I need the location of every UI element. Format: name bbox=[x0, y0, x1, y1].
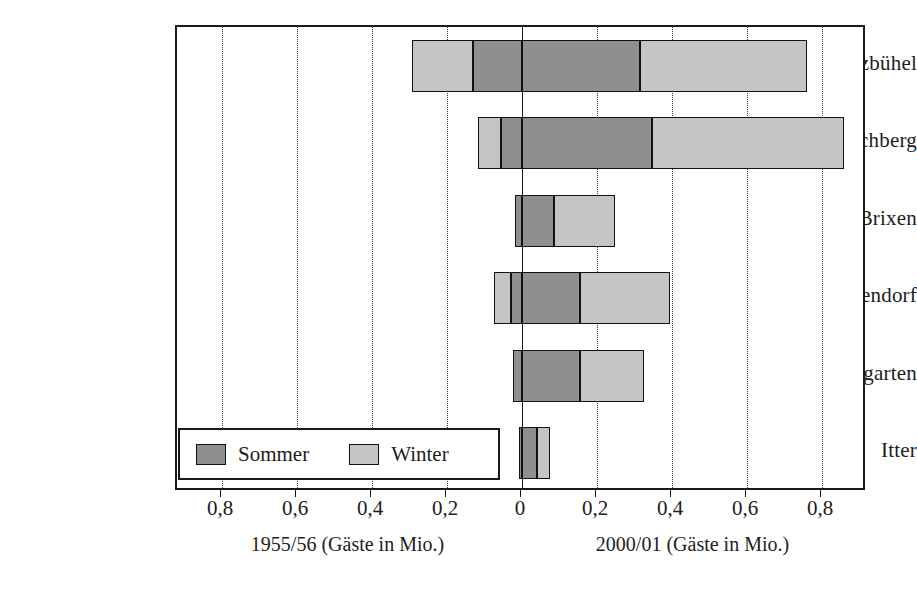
plot-area bbox=[175, 25, 865, 490]
bar-segment-sommer-2000 bbox=[522, 427, 537, 479]
legend-label-sommer: Sommer bbox=[238, 444, 309, 465]
tick-label: 0,2 bbox=[415, 498, 475, 519]
bar-segment-winter-2000 bbox=[652, 117, 844, 169]
bar-segment-sommer-2000 bbox=[522, 195, 554, 247]
bar-segment-winter-2000 bbox=[554, 195, 615, 247]
gridline bbox=[597, 27, 598, 488]
bar-segment-sommer-1955 bbox=[515, 195, 522, 247]
gridline bbox=[672, 27, 673, 488]
bar-segment-sommer-2000 bbox=[522, 40, 640, 92]
bar-segment-sommer-2000 bbox=[522, 117, 652, 169]
tick-label: 0,4 bbox=[640, 498, 700, 519]
gridline bbox=[822, 27, 823, 488]
bar-segment-winter-2000 bbox=[580, 272, 670, 324]
legend-swatch-winter-icon bbox=[349, 444, 379, 465]
tick-label: 0,4 bbox=[340, 498, 400, 519]
bar-segment-sommer-1955 bbox=[501, 117, 522, 169]
tick-label: 0,8 bbox=[190, 498, 250, 519]
legend-entry-sommer: Sommer bbox=[196, 444, 309, 465]
tick-label: 0,2 bbox=[565, 498, 625, 519]
tick-label: 0,6 bbox=[715, 498, 775, 519]
bar-segment-winter-1955 bbox=[412, 40, 473, 92]
legend-entry-winter: Winter bbox=[349, 444, 448, 465]
zero-axis-line bbox=[522, 27, 523, 488]
bar-segment-sommer-1955 bbox=[513, 350, 522, 402]
right-axis-caption: 2000/01 (Gäste in Mio.) bbox=[523, 534, 863, 554]
bar-segment-winter-2000 bbox=[580, 350, 644, 402]
legend-label-winter: Winter bbox=[391, 444, 448, 465]
gridline bbox=[372, 27, 373, 488]
diverging-bar-chart: KitzbühelKirchbergBrixenWestendorfHopfga… bbox=[0, 0, 917, 596]
gridline bbox=[447, 27, 448, 488]
bar-segment-winter-2000 bbox=[537, 427, 550, 479]
bar-segment-winter-1955 bbox=[494, 272, 511, 324]
chart-legend: Sommer Winter bbox=[178, 428, 500, 480]
bar-segment-winter-1955 bbox=[478, 117, 502, 169]
bar-segment-sommer-2000 bbox=[522, 272, 580, 324]
left-axis-caption: 1955/56 (Gäste in Mio.) bbox=[178, 534, 518, 554]
bar-segment-sommer-1955 bbox=[473, 40, 522, 92]
tick-label: 0,8 bbox=[790, 498, 850, 519]
bar-segment-winter-2000 bbox=[640, 40, 807, 92]
bar-segment-sommer-2000 bbox=[522, 350, 580, 402]
gridline bbox=[222, 27, 223, 488]
tick-label: 0,6 bbox=[265, 498, 325, 519]
gridline bbox=[297, 27, 298, 488]
gridline bbox=[747, 27, 748, 488]
legend-swatch-sommer-icon bbox=[196, 444, 226, 465]
bar-segment-sommer-1955 bbox=[511, 272, 522, 324]
tick-label: 0 bbox=[490, 498, 550, 519]
